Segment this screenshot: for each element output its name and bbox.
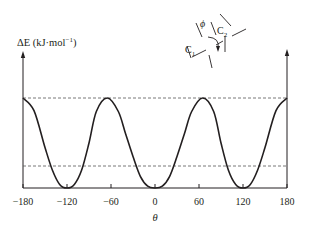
- energy-curve: [23, 98, 287, 188]
- x-tick-label: −180: [13, 196, 34, 207]
- axes: [23, 55, 287, 188]
- x-tick-label: 60: [194, 196, 204, 207]
- y-axis-right-arrow-icon: [285, 49, 289, 56]
- x-tick-labels: −180−120−60060120180: [13, 196, 295, 207]
- molecule-inset: [187, 14, 246, 68]
- y-axis-left-arrow-icon: [21, 51, 25, 58]
- x-tick-label: 120: [236, 196, 251, 207]
- c1-subscript: 1: [192, 50, 196, 58]
- c2-label: C2: [217, 25, 228, 39]
- y-axis-title: ΔE (kJ·mol−1): [17, 36, 77, 49]
- x-tick-label: 180: [280, 196, 295, 207]
- y-axis-title-close: ): [73, 37, 77, 49]
- y-axis-title-main: ΔE (kJ·mol: [17, 37, 66, 49]
- x-tick-label: 0: [153, 196, 158, 207]
- x-axis-title: θ: [152, 212, 157, 223]
- rotation-arrowhead-icon: [216, 46, 220, 52]
- c2-subscript: 2: [224, 31, 228, 39]
- x-tick-label: −120: [57, 196, 78, 207]
- x-tick-label: −60: [103, 196, 119, 207]
- phi-label: ϕ: [200, 18, 205, 29]
- energy-chart: −180−120−60060120180 ΔE (kJ·mol−1) θ ϕ C…: [0, 0, 309, 233]
